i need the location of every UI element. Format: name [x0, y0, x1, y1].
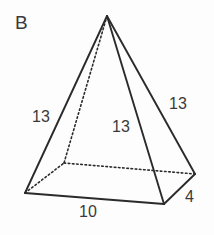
right-slant-edge-length-label: 13: [169, 96, 187, 112]
edge-apex-to-left-vertex: [25, 16, 107, 193]
edge-apex-to-back-vertex: [64, 16, 107, 163]
figure-container: B 13 13 13 10 4: [0, 0, 214, 235]
base-side-edge-length-label: 4: [185, 189, 194, 205]
base-front-edge-length-label: 10: [79, 204, 97, 220]
edge-left-vertex-to-back-vertex: [25, 163, 64, 193]
figure-id-label: B: [15, 13, 28, 32]
edge-back-vertex-to-right-vertex: [64, 163, 195, 174]
front-slant-edge-length-label: 13: [112, 119, 130, 135]
edge-apex-to-front-vertex: [107, 16, 164, 204]
left-slant-edge-length-label: 13: [32, 109, 50, 125]
